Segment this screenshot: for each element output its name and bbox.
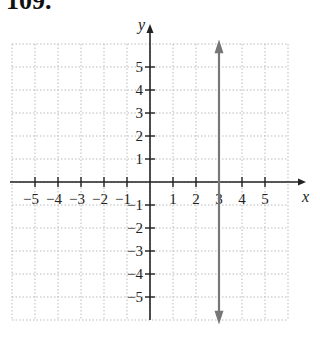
axes [10,24,306,320]
x-tick-label: −2 [92,191,108,207]
x-axis-label: x [301,188,309,205]
y-tick-label: 3 [136,105,144,121]
y-tick-label: −3 [127,243,143,259]
x-tick-label: −5 [23,191,39,207]
y-tick-label: −4 [127,266,143,282]
y-tick-label: 5 [136,59,144,75]
x-tick-label: 1 [169,191,177,207]
x-tick-label: 4 [238,191,246,207]
x-tick-label: −4 [46,191,62,207]
y-tick-label: 1 [136,151,144,167]
y-tick-label: 4 [136,82,144,98]
x-tick-label: 2 [192,191,200,207]
y-tick-label: 2 [136,128,144,144]
y-tick-label: −2 [127,220,143,236]
y-axis-label: y [136,16,146,34]
coordinate-plane: −5−4−3−2−11234554321−1−2−3−4−5 x y [0,0,320,349]
x-tick-label: 5 [261,191,269,207]
y-tick-label: −5 [127,289,143,305]
x-tick-label: −3 [69,191,85,207]
y-tick-label: −1 [127,197,143,213]
